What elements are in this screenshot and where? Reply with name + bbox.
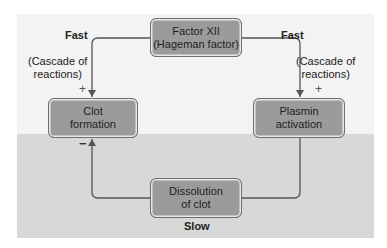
- edge-factor-to-plasmin: [242, 38, 300, 97]
- node-plasmin-line2: activation: [276, 118, 322, 131]
- label-cascade-left-line1: (Cascade of: [28, 55, 87, 68]
- label-cascade-left: (Cascade of reactions): [28, 55, 87, 81]
- label-fast-left: Fast: [65, 29, 88, 42]
- label-cascade-right: (Cascade of reactions): [296, 55, 355, 81]
- label-slow: Slow: [184, 220, 210, 233]
- node-factor-line2: (Hageman factor): [153, 38, 239, 51]
- node-clot-formation: Clot formation: [48, 98, 138, 138]
- node-factor-xii: Factor XII (Hageman factor): [150, 18, 242, 57]
- label-cascade-right-line2: reactions): [296, 68, 355, 81]
- node-plasmin-line1: Plasmin: [276, 105, 322, 118]
- node-dissolution-line2: of clot: [169, 198, 223, 211]
- label-fast-right: Fast: [281, 29, 304, 42]
- node-clot-line1: Clot: [70, 105, 116, 118]
- edge-dissolution-to-clot: [92, 139, 150, 198]
- sign-plus-clot: +: [79, 83, 86, 96]
- edge-factor-to-clot: [92, 38, 150, 97]
- edge-plasmin-to-dissolution: [242, 138, 300, 198]
- node-dissolution-of-clot: Dissolution of clot: [150, 178, 242, 218]
- node-plasmin-activation: Plasmin activation: [253, 98, 345, 138]
- sign-plus-plasmin: +: [315, 83, 322, 96]
- sign-minus-clot: −: [79, 137, 87, 150]
- label-cascade-left-line2: reactions): [28, 68, 87, 81]
- label-cascade-right-line1: (Cascade of: [296, 55, 355, 68]
- node-clot-line2: formation: [70, 118, 116, 131]
- node-factor-line1: Factor XII: [153, 25, 239, 38]
- node-dissolution-line1: Dissolution: [169, 185, 223, 198]
